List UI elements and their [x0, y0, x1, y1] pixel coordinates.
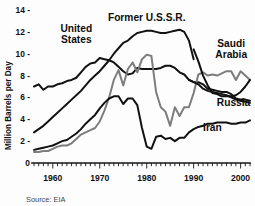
annotation-iran: Iran: [203, 122, 222, 133]
x-tick-label: 1960: [43, 173, 62, 183]
y-axis-title: Million Barrels per Day: [4, 61, 13, 150]
x-tick-label: 1970: [90, 173, 109, 183]
annotation-former-u-s-s-r: Former U.S.S.R.: [108, 12, 186, 23]
oil-production-line-chart: 02 -4 -6 -8 -10 -12 -14 - 19601970198019…: [0, 0, 255, 206]
y-tick-label: 10 -: [16, 49, 31, 59]
y-tick-label: 6 -: [20, 92, 30, 102]
x-tick-label: 2000: [231, 173, 250, 183]
annotation-united: UnitedStates: [60, 23, 92, 45]
y-tick-label: 4 -: [20, 114, 30, 124]
annotation-russia: Russia: [217, 97, 251, 108]
x-tick-label: 1990: [184, 173, 203, 183]
x-tick-label: 1980: [137, 173, 156, 183]
y-tick-label: 0: [25, 158, 30, 168]
y-tick-label: 2 -: [20, 136, 30, 146]
y-tick-label: 12 -: [16, 27, 31, 37]
y-tick-label: 8 -: [20, 71, 30, 81]
source-note: Source: EIA: [26, 195, 66, 204]
annotation-saudi: SaudiArabia: [215, 38, 247, 60]
chart-figure: 02 -4 -6 -8 -10 -12 -14 - 19601970198019…: [0, 0, 255, 206]
y-tick-label: 14 -: [16, 5, 31, 15]
